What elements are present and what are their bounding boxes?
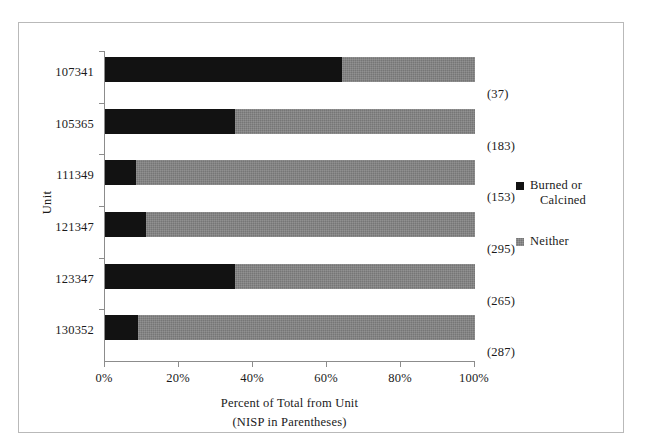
x-axis-title: Percent of Total from Unit (104, 396, 475, 411)
chart-frame: Unit 107341 (37) 105365 (183) 111349 (18, 22, 624, 433)
legend: Burned or Calcined Neither (516, 178, 621, 269)
bar-segment-neither[interactable] (235, 264, 476, 289)
plot-area: 107341 (37) 105365 (183) 111349 (153) (104, 51, 474, 361)
bar-segment-burned[interactable] (105, 264, 235, 289)
x-axis-tick-label: 0% (95, 371, 112, 386)
x-axis-subtitle: (NISP in Parentheses) (104, 415, 475, 430)
stacked-bar[interactable] (105, 109, 475, 134)
bar-segment-neither[interactable] (146, 212, 475, 237)
x-axis-tick (474, 362, 475, 367)
stacked-bar[interactable] (105, 264, 475, 289)
y-axis-tick (99, 309, 104, 310)
bar-segment-burned[interactable] (105, 109, 235, 134)
stacked-bar[interactable] (105, 160, 475, 185)
bar-segment-burned[interactable] (105, 212, 146, 237)
legend-label-neither: Neither (530, 234, 621, 249)
y-axis-tick (99, 258, 104, 259)
y-axis-tick-label: 130352 (55, 323, 94, 338)
legend-label-burned-line2: Calcined (540, 193, 621, 208)
legend-label-burned: Burned or Calcined (530, 178, 621, 208)
bar-segment-neither[interactable] (136, 160, 475, 185)
y-axis-tick (99, 154, 104, 155)
bar-segment-burned[interactable] (105, 160, 136, 185)
bar-segment-burned[interactable] (105, 57, 342, 82)
bar-row: 123347 (265) (104, 258, 474, 310)
y-axis-tick (99, 206, 104, 207)
nisp-label: (287) (487, 345, 515, 360)
nisp-label: (265) (487, 294, 515, 309)
y-axis-tick-label: 111349 (56, 168, 94, 183)
y-axis-tick-label: 121347 (55, 220, 94, 235)
bar-row: 130352 (287) (104, 309, 474, 361)
bar-segment-neither[interactable] (235, 109, 476, 134)
bar-row: 121347 (295) (104, 206, 474, 258)
bar-segment-burned[interactable] (105, 315, 138, 340)
stacked-bar[interactable] (105, 212, 475, 237)
x-axis-tick-label: 100% (459, 371, 489, 386)
stacked-bar[interactable] (105, 315, 475, 340)
bar-row: 111349 (153) (104, 154, 474, 206)
nisp-label: (183) (487, 139, 515, 154)
x-axis-tick (400, 362, 401, 367)
legend-label-burned-line1: Burned or (530, 178, 582, 192)
x-axis-tick (104, 362, 105, 367)
y-axis-tick (99, 103, 104, 104)
x-axis-tick (252, 362, 253, 367)
nisp-label: (153) (487, 190, 515, 205)
gray-square-swatch-icon (516, 238, 524, 246)
y-axis-tick-label: 107341 (55, 65, 94, 80)
x-axis-line (104, 361, 475, 362)
black-square-swatch-icon (516, 182, 524, 190)
stacked-bar[interactable] (105, 57, 475, 82)
nisp-label: (37) (487, 87, 509, 102)
y-axis-tick-label: 105365 (55, 117, 94, 132)
bar-row: 105365 (183) (104, 103, 474, 155)
x-axis-tick-label: 60% (314, 371, 338, 386)
y-axis-title: Unit (40, 163, 55, 243)
legend-entry-burned[interactable]: Burned or Calcined (516, 178, 621, 208)
x-axis-tick (178, 362, 179, 367)
x-axis-tick-label: 40% (240, 371, 264, 386)
y-axis-tick-label: 123347 (55, 272, 94, 287)
y-axis-tick (99, 51, 104, 52)
bar-segment-neither[interactable] (342, 57, 475, 82)
legend-entry-neither[interactable]: Neither (516, 234, 621, 249)
bar-segment-neither[interactable] (138, 315, 475, 340)
x-axis-tick-label: 80% (388, 371, 412, 386)
x-axis-tick-label: 20% (166, 371, 190, 386)
x-axis-tick (326, 362, 327, 367)
nisp-label: (295) (487, 242, 515, 257)
bar-row: 107341 (37) (104, 51, 474, 103)
